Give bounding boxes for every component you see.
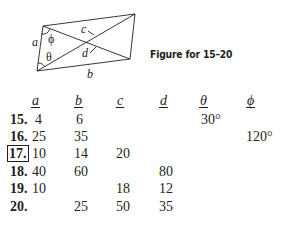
- figure-caption: Figure for 15–20: [150, 48, 232, 60]
- cell-a: 10: [32, 181, 46, 197]
- header-d: d: [159, 94, 168, 108]
- cell-b: 6: [76, 112, 83, 128]
- cell-c: 50: [116, 199, 130, 215]
- problem-number: 20.: [10, 199, 28, 215]
- parallelogram-diagram: [0, 0, 286, 95]
- cell-d: 12: [159, 181, 173, 197]
- problem-number: 18.: [10, 164, 28, 180]
- side-a-label: a: [32, 35, 38, 50]
- diagonal-c-label: c: [81, 22, 86, 37]
- cell-b: 35: [74, 129, 88, 145]
- parallelogram-figure: a ϕ θ c d b Figure for 15–20: [0, 0, 286, 95]
- cell-theta: 30°: [201, 112, 221, 128]
- cell-a: 4: [35, 112, 42, 128]
- angle-theta-label: θ: [46, 50, 52, 65]
- header-b: b: [74, 94, 83, 108]
- angle-phi-label: ϕ: [48, 32, 54, 47]
- diagonal-d-label: d: [82, 46, 88, 61]
- cell-phi: 120°: [246, 129, 273, 145]
- side-b-label: b: [87, 67, 93, 82]
- problem-number: 15.: [10, 112, 28, 128]
- cell-a: 40: [32, 164, 46, 180]
- header-theta: θ: [199, 94, 208, 108]
- cell-b: 25: [74, 199, 88, 215]
- problem-number: 16.: [10, 129, 28, 145]
- cell-c: 20: [116, 146, 130, 162]
- problem-number: 19.: [10, 181, 28, 197]
- cell-a: 10: [32, 146, 46, 162]
- cell-b: 60: [74, 164, 88, 180]
- cell-d: 80: [159, 164, 173, 180]
- problem-number-boxed: 17.: [10, 146, 29, 162]
- header-phi: ϕ: [246, 94, 255, 108]
- header-a: a: [31, 94, 40, 108]
- cell-d: 35: [159, 199, 173, 215]
- header-c: c: [116, 94, 124, 108]
- cell-b: 14: [74, 146, 88, 162]
- cell-c: 18: [116, 181, 130, 197]
- cell-a: 25: [32, 129, 46, 145]
